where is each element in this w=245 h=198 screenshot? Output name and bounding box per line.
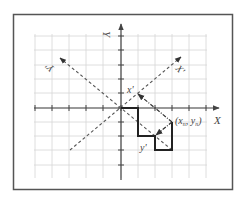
x-axis-label: X (213, 114, 222, 126)
coordinate-rotation-diagram: Y X Y' X' x' y' (xn, yn) (0, 0, 245, 198)
point-label: (xn, yn) (175, 115, 202, 127)
x-prime-projection-label: x' (126, 84, 134, 95)
y-prime-projection-label: y' (139, 142, 147, 153)
point-label-close: ) (197, 115, 202, 127)
figure-frame (14, 15, 233, 190)
